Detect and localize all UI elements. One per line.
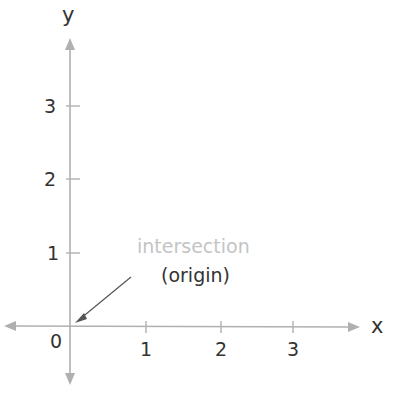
annotation-line1: intersection [137, 237, 250, 256]
y-axis-label: y [62, 5, 74, 26]
x-axis-line [14, 326, 350, 327]
x-tick-label-1: 1 [140, 340, 152, 359]
annotation-pointer-line [80, 277, 131, 319]
y-axis-down-arrow-icon [65, 373, 75, 385]
x-axis-label: x [371, 316, 383, 337]
y-tick-label-1: 1 [47, 244, 59, 263]
y-tick-label-2: 2 [44, 170, 56, 189]
annotation-line2: (origin) [161, 266, 230, 285]
y-tick-label-3: 3 [44, 97, 56, 116]
x-tick-label-3: 3 [287, 340, 299, 359]
x-axis-left-arrow-icon [4, 321, 16, 331]
x-axis-right-arrow-icon [348, 322, 360, 332]
origin-label: 0 [50, 332, 62, 351]
x-tick-label-2: 2 [215, 340, 227, 359]
y-axis-up-arrow-icon [65, 38, 75, 50]
